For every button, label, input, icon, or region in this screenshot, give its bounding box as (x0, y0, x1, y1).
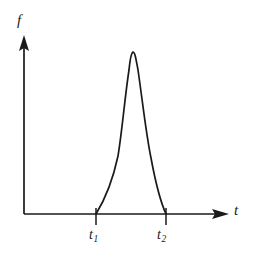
tick-label-t2: t2 (157, 228, 166, 242)
pulse-curve (96, 52, 166, 214)
plot-area (0, 0, 255, 259)
tick-label-t1: t1 (89, 228, 98, 242)
tick-label-t2-subscript: 2 (161, 234, 166, 244)
tick-label-t1-subscript: 1 (93, 234, 98, 244)
figure-canvas: f t t1 t2 (0, 0, 255, 259)
x-axis-label: t (234, 203, 238, 218)
y-axis-label: f (17, 13, 21, 28)
